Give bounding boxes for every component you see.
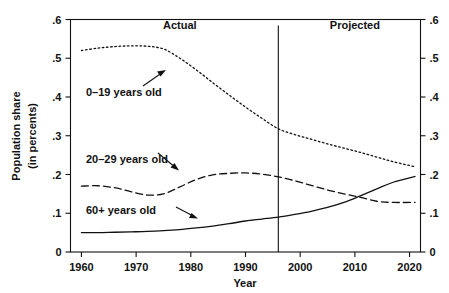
series-label-60-plus: 60+ years old	[86, 204, 156, 216]
y-axis-left-ticks: 0.1.2.3.4.5.6	[52, 14, 70, 259]
x-tick-label: 2010	[343, 261, 367, 273]
series-line-0	[81, 46, 415, 167]
population-share-line-chart: 0.1.2.3.4.5.6 0.1.2.3.4.5.6 196019701980…	[0, 0, 449, 293]
region-label-projected: Projected	[330, 19, 380, 31]
x-tick-label: 1980	[179, 261, 203, 273]
chart-figure: 0.1.2.3.4.5.6 0.1.2.3.4.5.6 196019701980…	[0, 0, 449, 293]
y-tick-label-right: .1	[430, 207, 439, 219]
y-tick-label-right: 0	[430, 246, 436, 258]
leader-arrow-0-19	[143, 70, 166, 86]
y-axis-title-line2: (in percents)	[26, 103, 38, 169]
y-tick-label-left: .4	[52, 91, 62, 103]
y-tick-label-left: .2	[52, 169, 61, 181]
series-label-0-19: 0–19 years old	[86, 86, 162, 98]
series-line-1	[81, 173, 415, 203]
x-tick-label: 1990	[233, 261, 257, 273]
y-tick-label-left: .1	[52, 207, 61, 219]
y-tick-label-left: 0	[55, 246, 61, 258]
y-axis-title-line1: Population share	[10, 91, 22, 180]
y-tick-label-right: .4	[430, 91, 440, 103]
x-tick-label: 2000	[288, 261, 312, 273]
x-axis-ticks: 1960197019801990200020102020	[69, 252, 422, 273]
y-axis-right-ticks: 0.1.2.3.4.5.6	[421, 14, 440, 259]
y-tick-label-right: .6	[430, 14, 439, 26]
plot-frame	[71, 20, 421, 253]
y-tick-label-right: .5	[430, 52, 439, 64]
x-tick-label: 2020	[397, 261, 421, 273]
leader-arrow-60-plus	[176, 207, 198, 219]
y-tick-label-right: .3	[430, 130, 439, 142]
y-tick-label-left: .6	[52, 14, 61, 26]
series-label-20-29: 20–29 years old	[86, 153, 168, 165]
x-tick-label: 1970	[124, 261, 148, 273]
y-tick-label-left: .3	[52, 130, 61, 142]
region-label-actual: Actual	[163, 19, 197, 31]
y-tick-label-left: .5	[52, 52, 61, 64]
x-tick-label: 1960	[69, 261, 93, 273]
y-tick-label-right: .2	[430, 169, 439, 181]
x-axis-title: Year	[233, 277, 257, 289]
